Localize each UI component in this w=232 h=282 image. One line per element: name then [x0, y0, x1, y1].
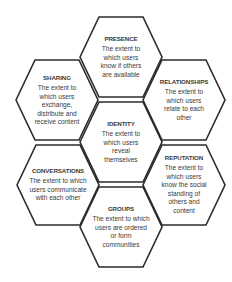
reputation-title: REPUTATION	[152, 154, 216, 161]
conversations-label: CONVERSATIONS The extent to which users …	[26, 167, 90, 203]
conversations-description: The extent to which users communicate wi…	[29, 177, 87, 203]
sharing-label: SHARING The extent to which users exchan…	[25, 74, 89, 127]
relationships-description: The extent to which users relate to each…	[159, 88, 209, 122]
presence-description: The extent to which users know if others…	[95, 45, 147, 79]
reputation-label: REPUTATION The extent to which users kno…	[152, 154, 216, 216]
presence-title: PRESENCE	[89, 35, 153, 42]
relationships-label: RELATIONSHIPS The extent to which users …	[152, 78, 216, 122]
sharing-description: The extent to which users exchange, dist…	[29, 84, 85, 127]
groups-title: GROUPS	[89, 205, 153, 212]
identity-description: The extent to which users reveal themsel…	[96, 130, 146, 164]
presence-label: PRESENCE The extent to which users know …	[89, 35, 153, 79]
relationships-title: RELATIONSHIPS	[152, 78, 216, 85]
reputation-description: The extent to which users know the socia…	[159, 164, 209, 216]
sharing-title: SHARING	[25, 74, 89, 81]
identity-title: IDENTITY	[89, 120, 153, 127]
identity-label: IDENTITY The extent to which users revea…	[89, 120, 153, 164]
groups-label: GROUPS The extent to which users are ord…	[89, 205, 153, 249]
groups-description: The extent to which users are ordered or…	[92, 215, 150, 249]
conversations-title: CONVERSATIONS	[26, 167, 90, 174]
